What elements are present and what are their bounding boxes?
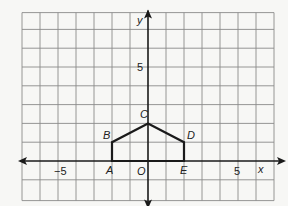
labels: ABCDE−555Oxy [54,14,264,177]
vertex-label-c: C [140,108,148,120]
x-tick-label: 5 [234,165,240,177]
origin-label: O [137,165,146,177]
vertex-label-a: A [105,164,113,176]
y-axis-label: y [136,14,144,26]
vertex-label-b: B [103,129,110,141]
coordinate-plane: ABCDE−555Oxy [0,0,288,206]
vertex-label-e: E [180,164,188,176]
x-tick-label: −5 [54,165,67,177]
vertex-label-d: D [187,129,195,141]
y-tick-label: 5 [137,61,143,73]
x-axis-label: x [257,163,264,175]
